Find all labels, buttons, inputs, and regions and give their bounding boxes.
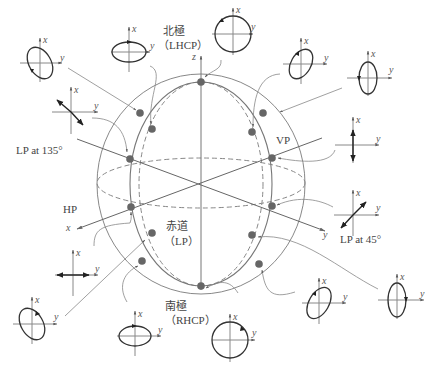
inset-y-label: y	[420, 288, 424, 299]
north-pole-sub-label: （LHCP）	[158, 39, 208, 52]
inset-y-label: y	[343, 291, 347, 302]
inset-tl-ellipse	[20, 38, 62, 83]
lp45-label: LP at 45°	[340, 233, 381, 246]
inset-y-label: y	[251, 21, 255, 32]
y-axis-label: y	[323, 229, 327, 240]
inset-y-label: y	[150, 40, 154, 51]
poincare-sphere-diagram: 北極 （LHCP） 南極 （RHCP） 赤道 （LP） VP HP LP at …	[0, 0, 437, 368]
inset-x-label: x	[304, 35, 308, 46]
inset-x-label: x	[43, 34, 47, 45]
inset-x-label: x	[322, 275, 326, 286]
inset-x-label: x	[132, 23, 136, 34]
x-axis-label: x	[66, 222, 70, 233]
inset-x-label: x	[400, 271, 404, 282]
inset-x-label: x	[74, 84, 78, 95]
inset-y-label: y	[95, 263, 99, 274]
inset-north-circle	[212, 8, 253, 55]
inset-x-label: x	[371, 48, 375, 59]
inset-x-label: x	[138, 308, 142, 319]
inset-x-label: x	[76, 247, 80, 258]
inset-y-label: y	[376, 202, 380, 213]
inset-x-label: x	[356, 114, 360, 125]
inset-y-label: y	[158, 324, 162, 335]
inset-x-label: x	[236, 4, 240, 15]
vp-label: VP	[276, 134, 290, 147]
inset-y-label: y	[54, 311, 58, 322]
inset-y-label: y	[94, 100, 98, 111]
equator-label: 赤道	[166, 220, 188, 233]
equator-sub-label: （LP）	[164, 235, 199, 248]
north-pole-label: 北極	[163, 25, 185, 38]
inset-tr-vertical-ellipse	[347, 51, 392, 96]
south-pole-sub-label: （RHCP）	[165, 314, 216, 327]
inset-y-label: y	[324, 52, 328, 63]
inset-x-label: x	[35, 294, 39, 305]
inset-top-ellipse	[111, 27, 150, 72]
z-axis-label: z	[192, 51, 196, 62]
inset-y-label: y	[376, 133, 380, 144]
inset-x-label: x	[233, 311, 237, 322]
hp-label: HP	[63, 203, 77, 216]
lp135-label: LP at 135°	[16, 144, 63, 157]
inset-y-label: y	[60, 52, 64, 63]
inset-x-label: x	[356, 187, 360, 198]
inset-y-label: y	[252, 327, 256, 338]
south-pole-label: 南極	[165, 300, 187, 313]
inset-y-label: y	[389, 64, 393, 75]
